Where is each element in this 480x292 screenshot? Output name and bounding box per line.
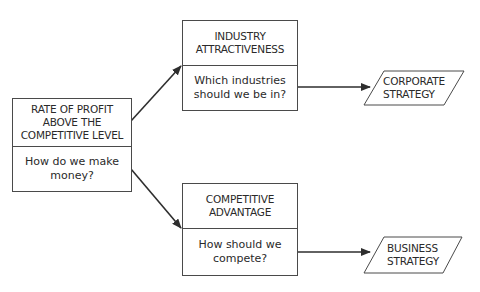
advantage-box-question: How should we compete? bbox=[198, 238, 281, 266]
profit-box-header: RATE OF PROFIT ABOVE THE COMPETITIVE LEV… bbox=[13, 99, 131, 147]
industry-box-question: Which industries should we be in? bbox=[194, 74, 286, 102]
industry-attractiveness-box: INDUSTRY ATTRACTIVENESS Which industries… bbox=[182, 20, 298, 111]
competitive-advantage-box: COMPETITIVE ADVANTAGE How should we comp… bbox=[182, 183, 298, 276]
profit-box-question: How do we make money? bbox=[25, 155, 119, 183]
industry-box-title: INDUSTRY ATTRACTIVENESS bbox=[196, 30, 285, 56]
industry-box-header: INDUSTRY ATTRACTIVENESS bbox=[183, 21, 297, 66]
advantage-box-title: COMPETITIVE ADVANTAGE bbox=[206, 193, 274, 219]
advantage-box-header: COMPETITIVE ADVANTAGE bbox=[183, 184, 297, 229]
business-strategy-text: BUSINESS STRATEGY bbox=[387, 242, 439, 268]
business-strategy-label: BUSINESS STRATEGY bbox=[370, 237, 456, 273]
profit-box-body: How do we make money? bbox=[13, 147, 131, 191]
advantage-box-body: How should we compete? bbox=[183, 229, 297, 275]
arrow-to-industry-attractiveness bbox=[131, 66, 181, 121]
strategy-diagram: RATE OF PROFIT ABOVE THE COMPETITIVE LEV… bbox=[0, 0, 480, 292]
profit-box-title: RATE OF PROFIT ABOVE THE COMPETITIVE LEV… bbox=[21, 103, 124, 142]
profit-above-competitive-level-box: RATE OF PROFIT ABOVE THE COMPETITIVE LEV… bbox=[12, 98, 132, 192]
corporate-strategy-label: CORPORATE STRATEGY bbox=[370, 71, 458, 105]
corporate-strategy-text: CORPORATE STRATEGY bbox=[383, 75, 445, 101]
arrow-to-competitive-advantage bbox=[131, 169, 181, 228]
industry-box-body: Which industries should we be in? bbox=[183, 66, 297, 110]
